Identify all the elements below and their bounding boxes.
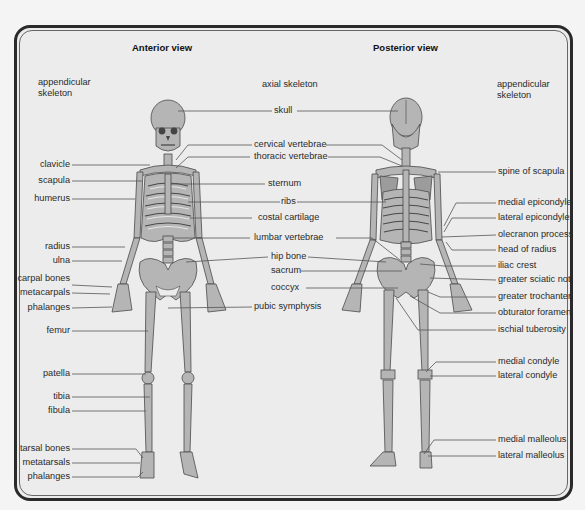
label-coccyx: coccyx — [271, 282, 299, 293]
label-spine-of-scapula: spine of scapula — [498, 166, 564, 177]
label-metatarsals: metatarsals — [23, 457, 71, 468]
axial-skeleton-label: axial skeleton — [262, 79, 318, 90]
label-medial-malleolus: medial malleolus — [498, 434, 566, 445]
label-femur: femur — [47, 325, 71, 336]
label-tarsal-bones: tarsal bones — [20, 443, 70, 454]
label-medial-epicondyle: medial epicondyle — [498, 197, 572, 208]
label-ribs: ribs — [281, 196, 296, 207]
label-greater-sciatic-notch: greater sciatic notch — [498, 274, 572, 285]
label-olecranon-process: olecranon process — [498, 229, 573, 240]
label-lateral-epicondyle: lateral epicondyle — [498, 212, 570, 223]
label-ischial-tuberosity: ischial tuberosity — [498, 324, 566, 335]
label-sacrum: sacrum — [271, 265, 301, 276]
label-scapula: scapula — [38, 175, 70, 186]
label-humerus: humerus — [34, 193, 70, 204]
label-lateral-condyle: lateral condyle — [498, 370, 557, 381]
label-clavicle: clavicle — [40, 159, 70, 170]
label-pubic-symphysis: pubic symphysis — [254, 301, 321, 312]
appendicular-skeleton-left-label: appendicular skeleton — [38, 77, 91, 99]
label-hip-bone: hip bone — [271, 251, 306, 262]
label-thoracic-vertebrae: thoracic vertebrae — [254, 151, 328, 162]
label-patella: patella — [43, 368, 70, 379]
posterior-skeleton — [342, 98, 472, 468]
posterior-view-title: Posterior view — [373, 42, 438, 53]
label-costal-cartilage: costal cartilage — [258, 212, 319, 223]
label-lumbar-vertebrae: lumbar vertebrae — [254, 232, 323, 243]
label-medial-condyle: medial condyle — [498, 356, 559, 367]
leader-lines — [72, 111, 496, 477]
label-skull: skull — [274, 105, 292, 116]
label-radius: radius — [45, 241, 70, 252]
label-lateral-malleolus: lateral malleolus — [498, 450, 564, 461]
appendicular-skeleton-right-label: appendicular skeleton — [497, 79, 550, 101]
label-tibia: tibia — [53, 391, 70, 402]
label-cervical-vertebrae: cervical vertebrae — [254, 139, 327, 150]
label-carpal-bones: carpal bones — [17, 273, 70, 284]
label-iliac-crest: iliac crest — [498, 260, 536, 271]
label-head-of-radius: head of radius — [498, 244, 556, 255]
label-greater-trochanter: greater trochanter — [498, 291, 571, 302]
label-fibula: fibula — [48, 405, 70, 416]
label-metacarpals: metacarpals — [20, 287, 70, 298]
label-phalanges-hand: phalanges — [28, 302, 70, 313]
label-phalanges-foot: phalanges — [28, 471, 70, 482]
label-obturator-foramen: obturator foramen — [498, 307, 571, 318]
anterior-view-title: Anterior view — [132, 42, 192, 53]
label-ulna: ulna — [53, 255, 70, 266]
label-sternum: sternum — [268, 178, 301, 189]
